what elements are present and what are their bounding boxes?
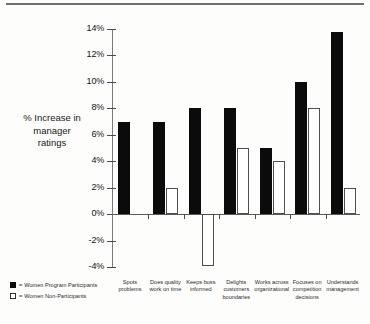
legend-item-label: Women Non-Participants xyxy=(24,293,86,299)
bar xyxy=(295,82,307,214)
y-axis-tick-label: 2% xyxy=(74,182,104,192)
x-axis-group-separator xyxy=(290,214,291,219)
y-axis-tick-label: 6% xyxy=(74,129,104,139)
bar xyxy=(153,122,165,215)
bar xyxy=(344,188,356,214)
x-axis-category-label-line: informed xyxy=(181,286,221,293)
y-axis-tick-label: 10% xyxy=(74,76,104,86)
x-axis-category-label-line: decisions xyxy=(287,294,327,301)
x-axis-category-label-line: Keeps boss xyxy=(181,279,221,286)
x-axis-category-label-line: Spots xyxy=(110,279,150,286)
bar xyxy=(118,122,130,215)
plot-area: 14%12%10%8%6%4%2%0%-2%-4% xyxy=(112,26,360,270)
y-axis-tick-label: -2% xyxy=(74,235,104,245)
x-axis-category-label: Works acrossorganizational xyxy=(252,279,292,294)
x-axis-group-separator xyxy=(219,214,220,219)
bar xyxy=(308,108,320,214)
bars-layer xyxy=(112,26,360,270)
x-axis-category-label: Delightscustomersboundaries xyxy=(216,279,256,301)
bar xyxy=(166,188,178,214)
x-axis-category-label-line: Focuses on xyxy=(287,279,327,286)
chart-legend: =Women Program Participants=Women Non-Pa… xyxy=(10,281,110,303)
y-axis-tick-label: 12% xyxy=(74,49,104,59)
bar xyxy=(224,108,236,214)
y-axis-tick-label: 4% xyxy=(74,155,104,165)
bar xyxy=(189,108,201,214)
x-axis-category-label: Spotsproblems xyxy=(110,279,150,294)
bar xyxy=(273,161,285,214)
x-axis-category-label-line: management xyxy=(323,286,363,293)
x-axis-category-label-line: problems xyxy=(110,286,150,293)
bar xyxy=(202,214,214,266)
x-axis-group-separator xyxy=(326,214,327,219)
legend-item-label: Women Program Participants xyxy=(24,282,97,288)
x-axis-category-label: Focuses oncompetitiondecisions xyxy=(287,279,327,301)
x-axis-group-separator xyxy=(184,214,185,219)
legend-item: =Women Non-Participants xyxy=(10,292,110,300)
x-axis-category-label-line: work on time xyxy=(145,286,185,293)
x-axis-category-label: Keeps bossinformed xyxy=(181,279,221,294)
x-axis-category-label: Understandsmanagement xyxy=(323,279,363,294)
legend-item: =Women Program Participants xyxy=(10,281,110,289)
y-axis-title-line-1: % Increase in xyxy=(6,112,98,125)
legend-separator: = xyxy=(19,282,22,288)
legend-separator: = xyxy=(19,293,22,299)
x-axis-category-labels: SpotsproblemsDoes qualitywork on timeKee… xyxy=(112,279,364,321)
x-axis-category-label: Does qualitywork on time xyxy=(145,279,185,294)
x-axis-category-label-line: Works across xyxy=(252,279,292,286)
x-axis-category-label-line: Delights xyxy=(216,279,256,286)
x-axis-category-label-line: Understands xyxy=(323,279,363,286)
x-axis-category-label-line: Does quality xyxy=(145,279,185,286)
x-axis-group-separator xyxy=(148,214,149,219)
legend-swatch-filled-icon xyxy=(10,282,16,288)
y-axis-tick-label: 8% xyxy=(74,102,104,112)
legend-swatch-outline-icon xyxy=(10,293,16,299)
x-axis-category-label-line: organizational xyxy=(252,286,292,293)
x-axis-category-label-line: competition xyxy=(287,286,327,293)
x-axis-category-label-line: boundaries xyxy=(216,294,256,301)
y-axis-tick-label: -4% xyxy=(74,261,104,271)
x-axis-category-label-line: customers xyxy=(216,286,256,293)
y-axis-tick-label: 0% xyxy=(74,208,104,218)
bar xyxy=(237,148,249,214)
y-axis-tick-label: 14% xyxy=(74,23,104,33)
bar xyxy=(260,148,272,214)
y-axis-title-line-3: ratings xyxy=(6,137,98,150)
bar-chart-figure: % Increase in manager ratings 14%12%10%8… xyxy=(0,0,370,324)
x-axis-group-separator xyxy=(255,214,256,219)
bar xyxy=(331,32,343,214)
